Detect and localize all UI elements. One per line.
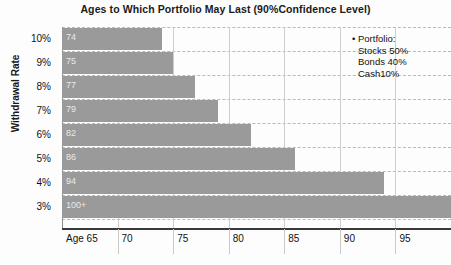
bar <box>62 172 384 194</box>
bar <box>62 28 162 50</box>
x-tick-separator <box>173 229 174 254</box>
x-tick-label: 90 <box>340 229 355 249</box>
bar-row: 82 <box>62 123 451 147</box>
x-tick-separator <box>118 229 119 254</box>
y-tick-label: 5% <box>0 147 58 171</box>
legend-item-cash: Cash10% <box>352 68 408 80</box>
bar-value-label: 75 <box>66 55 76 67</box>
legend: • Portfolio: Stocks 50% Bonds 40% Cash10… <box>352 33 408 79</box>
y-tick-label: 9% <box>0 51 58 75</box>
y-axis-tick-labels: 10%9%8%7%6%5%4%3% <box>0 27 58 228</box>
chart-title: Ages to Which Portfolio May Last (90%Con… <box>0 3 451 15</box>
bar <box>62 76 195 98</box>
x-tick-label: 75 <box>173 229 188 249</box>
legend-item-stocks: Stocks 50% <box>352 45 408 57</box>
y-tick-label: 4% <box>0 171 58 195</box>
bar-value-label: 94 <box>66 175 76 187</box>
legend-bullet-icon: • <box>352 33 355 44</box>
bar-row: 94 <box>62 171 451 195</box>
x-axis-tick-labels: Age 65707580859095100 <box>62 229 451 251</box>
x-tick-label: Age 65 <box>62 229 98 249</box>
bar-value-label: 79 <box>66 103 76 115</box>
legend-item-bonds: Bonds 40% <box>352 56 408 68</box>
chart-container: Ages to Which Portfolio May Last (90%Con… <box>0 0 451 265</box>
bar <box>62 148 295 170</box>
legend-heading: • Portfolio: <box>352 33 408 45</box>
y-tick-label: 6% <box>0 123 58 147</box>
x-tick-label: 85 <box>284 229 299 249</box>
x-tick-separator <box>284 229 285 254</box>
x-tick-separator <box>395 229 396 254</box>
bar <box>62 196 451 218</box>
x-tick-separator <box>229 229 230 254</box>
bar-value-label: 86 <box>66 151 76 163</box>
x-tick-label: 80 <box>229 229 244 249</box>
bar <box>62 52 173 74</box>
y-tick-label: 3% <box>0 195 58 219</box>
y-tick-label: 7% <box>0 99 58 123</box>
bar-row: 79 <box>62 99 451 123</box>
y-tick-label: 10% <box>0 27 58 51</box>
x-tick-label: 70 <box>118 229 133 249</box>
x-tick-label: 95 <box>395 229 410 249</box>
bar-row: 100+ <box>62 195 451 219</box>
bar-value-label: 77 <box>66 79 76 91</box>
bar-value-label: 100+ <box>66 199 86 211</box>
bar-row: 86 <box>62 147 451 171</box>
y-tick-label: 8% <box>0 75 58 99</box>
bar-value-label: 74 <box>66 31 76 43</box>
bar <box>62 124 251 146</box>
bar <box>62 100 218 122</box>
x-tick-separator <box>340 229 341 254</box>
bar-value-label: 82 <box>66 127 76 139</box>
legend-heading-label: Portfolio: <box>358 33 396 44</box>
